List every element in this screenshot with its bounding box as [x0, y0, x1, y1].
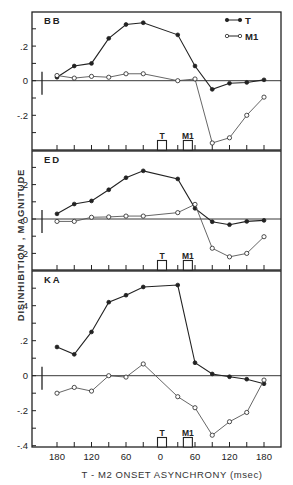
open-circle-marker [124, 214, 128, 218]
filled-circle-marker [210, 87, 214, 91]
x-tick-label: 60 [190, 451, 201, 462]
open-circle-marker [55, 219, 59, 223]
filled-circle-marker [72, 202, 76, 206]
open-circle-marker [193, 406, 197, 410]
y-tick-label: .2 [20, 335, 28, 346]
open-circle-marker [176, 79, 180, 83]
panel-label: BB [44, 15, 62, 26]
open-circle-marker [193, 77, 197, 81]
open-circle-marker [141, 214, 145, 218]
stimulus-marker-t [158, 261, 167, 271]
filled-circle-marker [141, 169, 145, 173]
open-circle-marker [89, 389, 93, 393]
open-circle-marker [245, 113, 249, 117]
panel-ed: .20-.2TM1ED [17, 151, 281, 270]
x-tick-label: 180 [49, 451, 65, 462]
stimulus-marker-m1 [183, 141, 192, 151]
panel-frame [32, 151, 281, 270]
stimulus-label: T [159, 131, 165, 141]
filled-circle-marker [124, 23, 128, 27]
open-circle-marker [107, 215, 111, 219]
stimulus-marker-m1 [183, 261, 192, 271]
open-circle-marker [124, 72, 128, 76]
open-circle-marker [227, 136, 231, 140]
filled-circle-marker [107, 36, 111, 40]
legend-label: T [245, 15, 251, 26]
open-circle-marker [124, 375, 128, 379]
open-circle-marker [107, 374, 111, 378]
legend-marker [225, 18, 228, 21]
series-line-t [57, 23, 264, 90]
x-tick-label: 60 [121, 451, 132, 462]
filled-circle-marker [176, 177, 180, 181]
filled-circle-marker [124, 176, 128, 180]
open-circle-marker [227, 420, 231, 424]
open-circle-marker [176, 211, 180, 215]
filled-circle-marker [107, 300, 111, 304]
open-circle-marker [89, 74, 93, 78]
y-tick-label: 0 [23, 370, 28, 381]
filled-circle-marker [72, 352, 76, 356]
y-axis-label: DISINHIBITION , MAGNITUDE [15, 169, 26, 321]
x-tick-label: 0 [158, 451, 163, 462]
stimulus-label: M1 [182, 428, 194, 438]
panel-bb: .20-.2TM1BB [17, 12, 281, 150]
x-tick-label: 120 [222, 451, 238, 462]
legend-marker [225, 34, 228, 37]
stimulus-label: T [159, 428, 165, 438]
open-circle-marker [262, 95, 266, 99]
open-circle-marker [210, 433, 214, 437]
legend-label: M1 [245, 31, 259, 42]
open-circle-marker [72, 219, 76, 223]
filled-circle-marker [55, 345, 59, 349]
y-tick-label: -.4 [17, 440, 28, 451]
filled-circle-marker [210, 220, 214, 224]
open-circle-marker [55, 391, 59, 395]
open-circle-marker [227, 255, 231, 259]
filled-circle-marker [228, 223, 232, 227]
filled-circle-marker [262, 78, 266, 82]
filled-circle-marker [228, 81, 232, 85]
open-circle-marker [210, 246, 214, 250]
stimulus-label: M1 [182, 251, 194, 261]
open-circle-marker [262, 378, 266, 382]
y-tick-label: 0 [23, 75, 28, 86]
stimulus-label: M1 [182, 131, 194, 141]
open-circle-marker [245, 251, 249, 255]
open-circle-marker [72, 385, 76, 389]
filled-circle-marker [245, 377, 249, 381]
x-tick-label: 180 [256, 451, 272, 462]
filled-circle-marker [55, 212, 59, 216]
filled-circle-marker [228, 375, 232, 379]
panels: .20-.2TM1BB.20-.2TM1ED.4.20-.2-.4TM1KATM… [17, 12, 281, 451]
series-line-m1 [57, 364, 264, 435]
filled-circle-marker [90, 62, 94, 66]
filled-circle-marker [141, 285, 145, 289]
filled-circle-marker [245, 220, 249, 224]
figure: .20-.2TM1BB.20-.2TM1ED.4.20-.2-.4TM1KATM… [0, 0, 293, 485]
filled-circle-marker [193, 64, 197, 68]
series-line-t [57, 285, 264, 384]
filled-circle-marker [176, 33, 180, 37]
open-circle-marker [72, 76, 76, 80]
open-circle-marker [210, 141, 214, 145]
filled-circle-marker [90, 199, 94, 203]
open-circle-marker [89, 215, 93, 219]
filled-circle-marker [262, 218, 266, 222]
y-tick-label: .2 [20, 41, 28, 52]
open-circle-marker [176, 395, 180, 399]
filled-circle-marker [176, 283, 180, 287]
y-tick-label: -.2 [17, 110, 28, 121]
filled-circle-marker [72, 64, 76, 68]
filled-circle-marker [90, 330, 94, 334]
stimulus-marker-t [158, 141, 167, 151]
x-tick-label: 120 [84, 451, 100, 462]
stimulus-marker-t [158, 438, 167, 448]
open-circle-marker [193, 202, 197, 206]
filled-circle-marker [107, 188, 111, 192]
panel-label: ED [44, 154, 61, 165]
legend: TM1 [225, 15, 259, 42]
panel-label: KA [44, 274, 62, 285]
open-circle-marker [55, 73, 59, 77]
legend-marker [238, 18, 241, 21]
